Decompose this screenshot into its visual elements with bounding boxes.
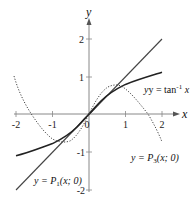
p3-label-prefix: y = (130, 152, 147, 163)
y-tick-label: -2 (77, 185, 85, 196)
y-axis-arrow-icon (87, 18, 92, 25)
x-axis (14, 111, 180, 117)
x-axis-arrow-icon (173, 112, 180, 117)
p3-label-p: P (146, 152, 153, 163)
p3-label-args: (x; 0) (157, 152, 180, 164)
x-tick-label: -1 (48, 119, 56, 130)
p3-label: y = P3(x; 0) (130, 152, 179, 165)
p1-label-p: P (49, 175, 56, 186)
diagram-canvas: -2 -1 0 1 2 2 1 -1 -2 x y yy = tan-1 x y… (0, 0, 195, 202)
x-tick-label: 1 (123, 119, 128, 130)
arctan-label-suffix: x (182, 84, 190, 95)
x-axis-label: x (181, 107, 188, 121)
x-tick-label: -2 (12, 119, 20, 130)
y-tick-label: 2 (79, 34, 84, 45)
y-axis-label: y (85, 5, 92, 19)
y-tick-label: 1 (79, 72, 84, 83)
p1-label: y = P1(x; 0) (33, 175, 82, 188)
p3-curve (14, 76, 162, 142)
p1-label-prefix: y = (33, 175, 50, 186)
y-tick-label: -1 (77, 147, 85, 158)
arctan-label: yy = tan-1 x (143, 83, 190, 95)
x-tick-label: 2 (160, 119, 165, 130)
p1-label-args: (x; 0) (60, 175, 83, 187)
arctan-label-prefix: y = tan (148, 84, 176, 95)
y-axis (86, 18, 92, 192)
